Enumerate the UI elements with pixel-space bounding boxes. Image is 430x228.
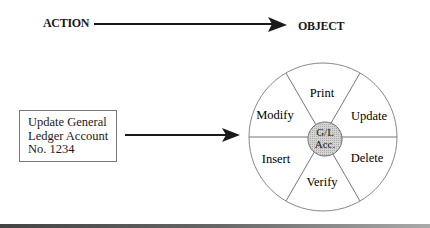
action-wheel: G/L Acc. Print Update Delete Verify Inse… — [249, 63, 397, 211]
segment-modify: Modify — [256, 108, 294, 122]
command-line-3: No. 1234 — [28, 143, 116, 157]
input-to-wheel-arrow — [125, 128, 240, 142]
hub-label-line2: Acc. — [315, 138, 336, 150]
segment-delete: Delete — [351, 151, 384, 165]
segment-update: Update — [351, 109, 388, 123]
segment-verify: Verify — [306, 175, 338, 189]
segment-insert: Insert — [262, 152, 291, 166]
object-label: OBJECT — [298, 19, 344, 34]
hub-label-line1: G/L — [316, 126, 334, 138]
bottom-rule — [0, 224, 430, 228]
command-line-1: Update General — [28, 116, 116, 130]
command-box: Update General Ledger Account No. 1234 — [19, 110, 117, 162]
action-object-arrow — [94, 17, 287, 32]
command-line-2: Ledger Account — [28, 130, 116, 144]
segment-print: Print — [310, 86, 335, 100]
